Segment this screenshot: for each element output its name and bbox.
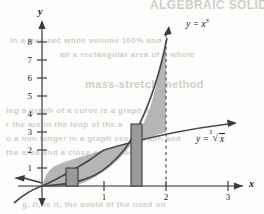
y-tick-label-8: 8: [20, 37, 32, 47]
y-tick-label-1: 1: [20, 163, 32, 173]
x-axis-left-stub: [22, 178, 42, 184]
curve-label-cubic: y = x3: [186, 17, 209, 29]
curve-label-cube-root: y =3√x: [196, 133, 225, 144]
y-tick-label-7: 7: [20, 55, 32, 65]
plot-canvas: [0, 0, 264, 214]
x-tick-label-2: 2: [160, 192, 172, 202]
y-tick-label-6: 6: [20, 73, 32, 83]
curve-label-cubic-exponent: 3: [206, 17, 209, 24]
radicand: x: [219, 133, 225, 144]
y-tick-label-2: 2: [20, 145, 32, 155]
figure-cube-and-cube-root-area: ALGEBRAIC SOLIDS in a tree sec while vol…: [0, 0, 264, 214]
x-axis-arrowhead-right: [234, 182, 243, 189]
y-axis-label: y: [38, 6, 42, 17]
x-tick-label-3: 3: [222, 192, 234, 202]
y-axis-arrowhead-up: [38, 20, 45, 29]
y-tick-label-5: 5: [20, 91, 32, 101]
x-axis-label: x: [249, 178, 254, 189]
cubic-arrowhead-up: [164, 26, 172, 36]
rectangle-strip-right: [131, 124, 142, 186]
cube-root-radical: 3√x: [209, 133, 225, 144]
cube-root-arrowhead-right: [227, 120, 237, 128]
shaded-area-between-curves: [42, 42, 166, 187]
curve-label-root-lhs: y =: [196, 134, 209, 144]
y-tick-label-3: 3: [20, 127, 32, 137]
y-tick-label-4: 4: [20, 109, 32, 119]
curve-label-cubic-text: y = x: [186, 19, 206, 29]
y-axis-arrowhead-down: [38, 198, 45, 207]
x-tick-label-1: 1: [98, 192, 110, 202]
radical-sign: √: [213, 132, 219, 143]
rectangle-strip-left: [66, 168, 78, 186]
